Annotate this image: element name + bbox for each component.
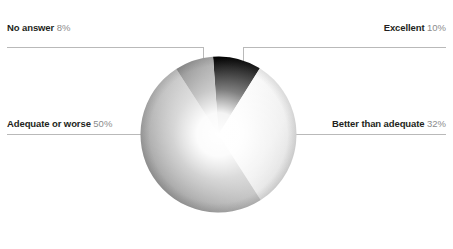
label-no-answer-name: No answer bbox=[7, 22, 54, 33]
label-excellent: Excellent10% bbox=[384, 22, 446, 33]
pie-rim-shade bbox=[141, 57, 297, 213]
label-better-than-adequate-name: Better than adequate bbox=[332, 118, 425, 129]
label-adequate-or-worse-name: Adequate or worse bbox=[7, 118, 91, 129]
label-better-than-adequate-percent: 32% bbox=[427, 118, 446, 129]
label-adequate-or-worse-percent: 50% bbox=[93, 118, 112, 129]
leader-line-adequate-or-worse bbox=[7, 134, 141, 135]
label-no-answer-percent: 8% bbox=[57, 22, 71, 33]
label-no-answer: No answer8% bbox=[7, 22, 70, 33]
pie-chart: No answer8% Excellent10% Adequate or wor… bbox=[0, 0, 453, 249]
label-excellent-percent: 10% bbox=[427, 22, 446, 33]
label-adequate-or-worse: Adequate or worse50% bbox=[7, 118, 112, 129]
label-excellent-name: Excellent bbox=[384, 22, 425, 33]
leader-line-no-answer-horizontal bbox=[7, 47, 203, 48]
leader-line-better-than-adequate bbox=[296, 134, 446, 135]
pie-graphic bbox=[140, 56, 297, 213]
pie-svg bbox=[140, 56, 297, 213]
leader-line-excellent-horizontal bbox=[243, 47, 446, 48]
label-better-than-adequate: Better than adequate32% bbox=[332, 118, 446, 129]
